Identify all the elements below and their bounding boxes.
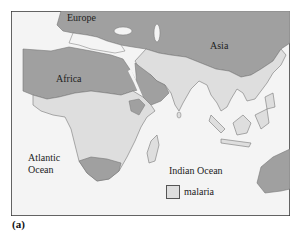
label-indian-ocean: Indian Ocean bbox=[169, 165, 223, 176]
malaria-map: Europe Asia Africa Atlantic Ocean Indian… bbox=[11, 11, 290, 216]
label-africa: Africa bbox=[56, 73, 82, 84]
label-europe: Europe bbox=[67, 12, 96, 23]
map-graphic bbox=[11, 11, 290, 216]
label-asia: Asia bbox=[210, 40, 228, 51]
legend-swatch bbox=[166, 185, 180, 199]
figure-caption: (a) bbox=[12, 218, 25, 230]
label-atlantic-line1: Atlantic bbox=[28, 152, 60, 163]
legend-label: malaria bbox=[184, 186, 214, 197]
label-atlantic-line2: Ocean bbox=[28, 164, 54, 175]
